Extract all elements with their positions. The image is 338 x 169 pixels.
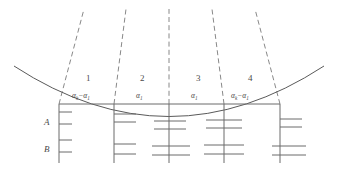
tick-group-2 (114, 114, 136, 154)
alpha-subscript: 1 (195, 95, 198, 101)
side-label-b: B (44, 145, 50, 154)
dashed-radial-lines (59, 9, 280, 104)
angle-label-region-1: αk−α1 (72, 92, 90, 100)
angle-label-region-2: α1 (136, 92, 143, 100)
tick-group-3 (152, 121, 190, 155)
region-number-2: 2 (140, 74, 145, 83)
region-number-3: 3 (196, 74, 201, 83)
alpha-subscript-2: 1 (246, 95, 249, 101)
tick-group-1 (59, 112, 72, 152)
alpha-subscript: k (235, 95, 237, 101)
region-number-4: 4 (248, 74, 253, 83)
dashed-line-5 (255, 9, 280, 104)
vertical-station-lines (59, 104, 280, 163)
dashed-line-1 (59, 9, 84, 104)
angle-label-region-3: α1 (191, 92, 198, 100)
dashed-line-2 (114, 9, 126, 104)
figure-canvas: 1 2 3 4 αk−α1 α1 α1 αk−α1 A B (0, 0, 338, 169)
side-label-a: A (44, 118, 50, 127)
alpha-subscript: 1 (140, 95, 143, 101)
dashed-line-4 (212, 9, 224, 104)
alpha-subscript: k (76, 95, 78, 101)
alpha-subscript-2: 1 (87, 95, 90, 101)
tick-group-5 (272, 119, 306, 155)
region-number-1: 1 (86, 74, 91, 83)
angle-label-region-4: αk−α1 (231, 92, 249, 100)
diagram-svg (0, 0, 338, 169)
